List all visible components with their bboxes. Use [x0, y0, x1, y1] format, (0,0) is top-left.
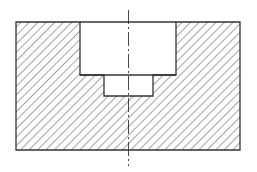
hatched-section [16, 22, 240, 150]
technical-drawing [0, 0, 257, 172]
